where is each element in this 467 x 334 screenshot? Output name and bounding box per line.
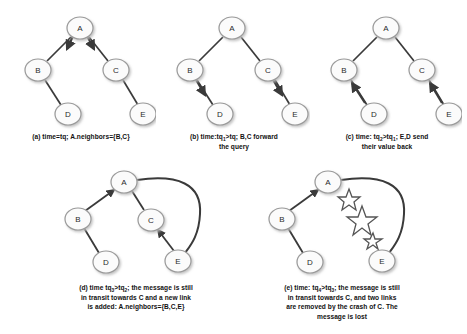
arrow-b-to-d (195, 78, 205, 95)
panel-d: A B C D E (d) time tq3>tq2; the message … (38, 164, 234, 312)
node-label-e: E (140, 110, 145, 119)
panel-a-graph: A B C D E (6, 4, 156, 130)
panel-b-caption-sub-1: 1 (223, 137, 226, 142)
panel-b-graph: A B C D E (158, 4, 310, 130)
panel-b-caption-seg-1: time:tq (201, 133, 223, 140)
panel-e-caption-sub-2: 3 (331, 288, 334, 293)
panel-b: A B C D E (b) time:tq1>tq; B,C forward t… (158, 4, 310, 151)
panel-c: A B C D E (c) time: tq2>tq1; E,D send th… (312, 4, 462, 151)
edge-a-c (132, 191, 144, 210)
panel-b-caption-seg-2: >tq; B,C forward (226, 133, 278, 140)
node-label-c: C (419, 66, 425, 75)
edge-b-d (288, 228, 303, 253)
panel-d-caption-sub-1: 3 (112, 288, 115, 293)
panel-e-caption-seg-1: time: tq (294, 284, 318, 291)
node-label-b: B (187, 66, 192, 75)
node-label-b: B (35, 66, 40, 75)
panel-d-graph: A B C D E (38, 164, 234, 280)
panel-e-caption-sub-1: 4 (319, 288, 322, 293)
arrow-e-to-c (430, 83, 442, 103)
arrow-d-to-b (352, 83, 365, 103)
node-label-d: D (65, 110, 71, 119)
panel-e-caption-seg-3: ; the message is still (334, 284, 400, 291)
arrow-e-to-c (158, 230, 174, 251)
node-label-a: A (77, 24, 83, 33)
edge-a-c (395, 37, 414, 61)
node-label-c: C (113, 66, 119, 75)
node-label-c: C (148, 216, 154, 225)
explosion-star-2-icon (347, 206, 377, 235)
node-label-d: D (371, 110, 377, 119)
panel-d-caption-seg-4: in transit towards C and a new link (81, 294, 191, 301)
panel-b-caption-seg-3: the query (219, 143, 249, 150)
node-label-d: D (307, 258, 313, 267)
edge-c-e (123, 80, 138, 105)
panel-a-label: (a) (32, 133, 40, 140)
panel-c-caption-sub-2: 1 (393, 137, 396, 142)
node-label-b: B (75, 215, 80, 224)
panel-a-caption: (a) time=tq; A.neighbors={B,C} (6, 132, 156, 141)
node-label-a: A (229, 24, 235, 33)
panel-c-label: (c) (346, 133, 354, 140)
arrow-b-to-a (289, 190, 318, 211)
node-label-a: A (121, 178, 127, 187)
panel-d-caption-seg-5: is added: A.neighbors={B,C,E} (87, 303, 184, 310)
panel-a-caption-line-1: time=tq; A.neighbors={B,C} (42, 133, 130, 140)
edge-a-c (89, 37, 108, 61)
explosion-star-1-icon (338, 189, 360, 210)
panel-d-caption-seg-2: >tq (114, 284, 124, 291)
panel-d-caption-sub-2: 2 (125, 288, 128, 293)
panel-c-caption-seg-4: their value back (362, 143, 413, 150)
panel-d-label: (d) (79, 284, 88, 291)
node-label-e: E (292, 110, 297, 119)
panel-d-caption-seg-3: ; the message is still (127, 284, 193, 291)
panel-b-label: (b) (190, 133, 199, 140)
crash-explosion-icon (338, 189, 382, 249)
node-label-e: E (446, 110, 451, 119)
edge-a-c (241, 37, 260, 61)
panel-d-caption: (d) time tq3>tq2; the message is still i… (38, 283, 234, 312)
panel-e-nodes (269, 171, 395, 273)
node-label-a: A (325, 178, 331, 187)
panel-e-caption-seg-2: >tq (321, 284, 331, 291)
panel-b-nodes (177, 17, 308, 125)
node-label-d: D (103, 258, 109, 267)
panel-d-nodes (65, 171, 191, 273)
arrow-b-to-a (85, 190, 114, 211)
edge-b-d (84, 228, 99, 253)
node-label-e: E (175, 257, 180, 266)
panel-e-caption-seg-4: in transit towards C, and two links (288, 294, 397, 301)
panel-a: A B C D E (a) time=tq; A.neighbors={B,C} (6, 4, 156, 141)
panel-b-caption: (b) time:tq1>tq; B,C forward the query (158, 132, 310, 151)
explosion-star-3-icon (364, 233, 382, 249)
panel-e-graph: A B D E (242, 164, 442, 280)
edge-a-b (199, 37, 223, 61)
edge-b-d (45, 80, 61, 105)
node-label-d: D (217, 110, 223, 119)
panel-d-caption-seg-1: time tq (90, 284, 112, 291)
panel-e: A B D E (e) time: tq4>tq3; the message i… (242, 164, 442, 321)
panel-e-label: (e) (284, 284, 292, 291)
node-label-c: C (265, 66, 271, 75)
node-label-a: A (383, 24, 389, 33)
panel-c-caption-seg-2: >tq (383, 133, 393, 140)
panel-c-caption-sub-1: 2 (380, 137, 383, 142)
panel-e-caption-seg-5: are removed by the crash of C. The (286, 303, 398, 310)
panel-a-nodes (25, 17, 156, 125)
edge-a-b (353, 37, 377, 61)
panel-e-edges (288, 178, 404, 253)
node-label-e: E (379, 257, 384, 266)
node-label-b: B (279, 215, 284, 224)
panel-c-caption-seg-3: ; E,D send (396, 133, 429, 140)
node-label-b: B (341, 66, 346, 75)
panel-c-nodes (331, 17, 462, 125)
panel-e-caption-seg-6: message is lost (317, 313, 367, 320)
panel-c-graph: A B C D E (312, 4, 462, 130)
panel-e-caption: (e) time: tq4>tq3; the message is still … (242, 283, 442, 321)
edge-c-e (275, 80, 290, 105)
panel-c-caption-seg-1: time: tq (356, 133, 380, 140)
panel-c-caption: (c) time: tq2>tq1; E,D send their value … (312, 132, 462, 151)
